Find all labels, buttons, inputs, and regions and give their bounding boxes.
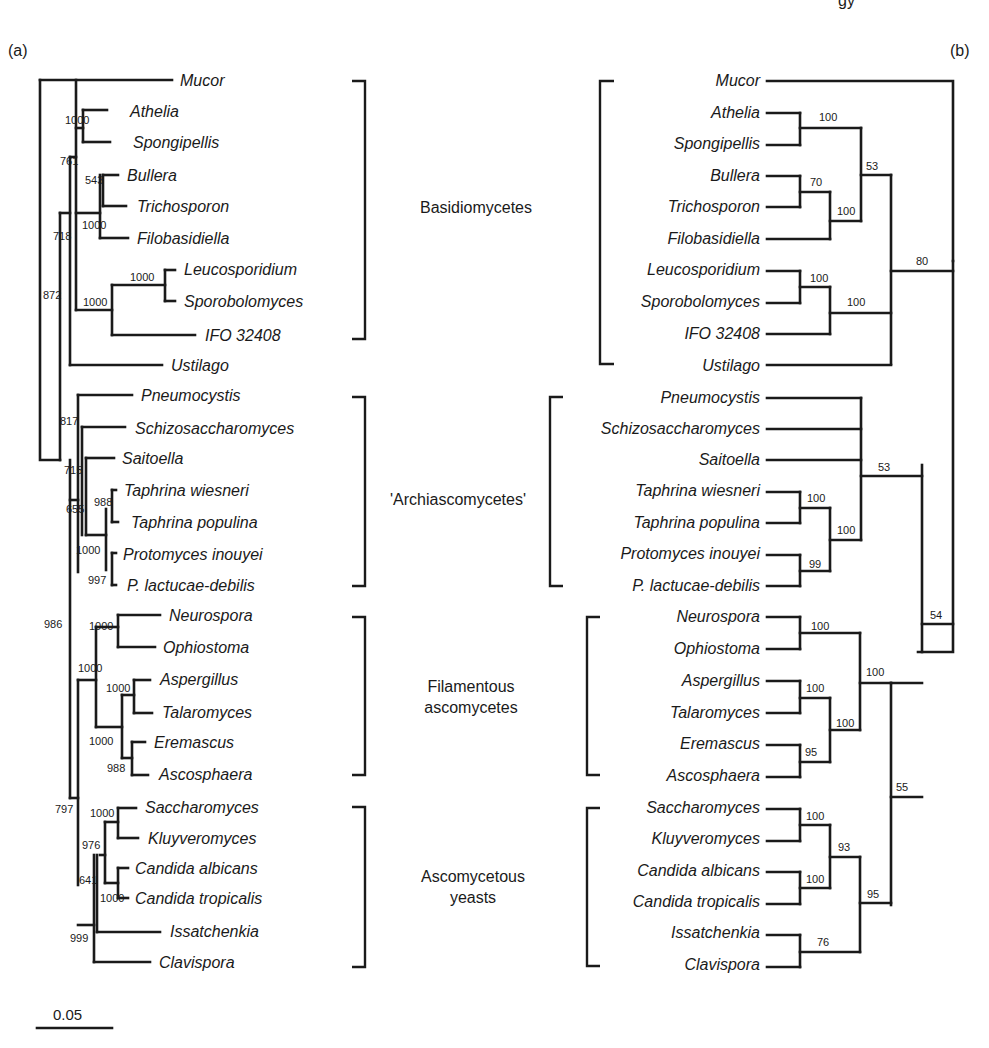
taxon-label: Kluyveromyces [148, 830, 256, 847]
panel-a-label: (a) [8, 42, 28, 59]
bootstrap-value: 997 [88, 574, 106, 586]
taxon-label: Leucosporidium [184, 261, 297, 278]
group-label-filamentous-line2: ascomycetes [424, 699, 517, 716]
group-label-filamentous-line1: Filamentous [427, 678, 514, 695]
taxon-label: Clavispora [684, 956, 760, 973]
panel-b: (b) Mucor Athelia Spongipellis Bullera T… [601, 42, 970, 973]
taxon-label: Ophiostoma [674, 640, 760, 657]
taxon-label: Sporobolomyces [641, 293, 760, 310]
taxon-label: Taphrina populina [131, 514, 258, 531]
group-label-archiascomycetes: 'Archiascomycetes' [390, 491, 526, 508]
bootstrap-value: 70 [810, 176, 822, 188]
taxon-label: Pneumocystis [141, 387, 241, 404]
taxon-label: Taphrina wiesneri [635, 482, 760, 499]
taxon-label: Candida tropicalis [135, 890, 262, 907]
taxon-label: Neurospora [676, 608, 760, 625]
bootstrap-value: 1000 [130, 271, 154, 283]
taxon-label: Aspergillus [681, 672, 760, 689]
taxon-label: Taphrina wiesneri [124, 482, 249, 499]
panel-b-branches [767, 81, 953, 967]
bootstrap-value: 76 [817, 936, 829, 948]
taxon-label: Mucor [180, 72, 225, 89]
taxon-label: Issatchenkia [671, 924, 760, 941]
bootstrap-value: 100 [806, 810, 824, 822]
taxon-label: Schizosaccharomyces [601, 420, 760, 437]
bracket-filamentous-b [587, 617, 600, 775]
group-brackets: Basidiomycetes 'Archiascomycetes' Filame… [352, 81, 614, 967]
bootstrap-value: 100 [847, 296, 865, 308]
taxon-label: Saccharomyces [145, 799, 259, 816]
bootstrap-value: 1000 [82, 219, 106, 231]
taxon-label: Bullera [710, 167, 760, 184]
taxon-label: Protomyces inouyei [123, 546, 263, 563]
bootstrap-value: 100 [810, 272, 828, 284]
taxon-label: Ascosphaera [158, 766, 252, 783]
bracket-yeasts-b [587, 808, 600, 966]
taxon-label: Ascosphaera [666, 767, 760, 784]
taxon-label: Protomyces inouyei [620, 545, 760, 562]
taxon-label: Neurospora [169, 607, 253, 624]
branch-root [40, 80, 60, 460]
taxon-label: Saitoella [699, 451, 760, 468]
bootstrap-value: 100 [836, 717, 854, 729]
bootstrap-value: 1000 [76, 544, 100, 556]
taxon-label: Candida tropicalis [633, 893, 760, 910]
taxon-label: P. lactucae-debilis [127, 577, 255, 594]
bootstrap-value: 54 [930, 609, 942, 621]
panel-a-taxa: Mucor Athelia Spongipellis Bullera Trich… [122, 72, 303, 971]
scale-bar-label: 0.05 [53, 1006, 82, 1023]
bootstrap-value: 655 [66, 503, 84, 515]
taxon-label: Saitoella [122, 450, 183, 467]
phylogenetic-figure: gy (a) [0, 0, 989, 1048]
bootstrap-value: 100 [866, 666, 884, 678]
bracket-yeasts-a [352, 807, 365, 967]
taxon-label: Ustilago [702, 357, 760, 374]
taxon-label: Clavispora [159, 954, 235, 971]
taxon-label: Athelia [710, 104, 760, 121]
taxon-label: Eremascus [680, 735, 760, 752]
bootstrap-value: 100 [819, 111, 837, 123]
bootstrap-value: 95 [867, 888, 879, 900]
bootstrap-value: 99 [809, 558, 821, 570]
bootstrap-value: 797 [55, 803, 73, 815]
bootstrap-value: 986 [44, 618, 62, 630]
bracket-archiascomycetes-a [352, 397, 365, 586]
taxon-label: Aspergillus [159, 671, 238, 688]
taxon-label: Ophiostoma [163, 639, 249, 656]
bootstrap-value: 1000 [65, 114, 89, 126]
bootstrap-value: 817 [60, 415, 78, 427]
taxon-label: P. lactucae-debilis [632, 577, 760, 594]
bracket-filamentous-a [352, 617, 365, 775]
bracket-basidiomycetes-a [352, 81, 365, 339]
taxon-label: Talaromyces [670, 704, 760, 721]
bootstrap-value: 80 [916, 255, 928, 267]
scale-bar: 0.05 [37, 1006, 112, 1028]
taxon-label: Candida albicans [637, 862, 760, 879]
bootstrap-value: 1000 [83, 296, 107, 308]
panel-b-label: (b) [950, 42, 970, 59]
taxon-label: IFO 32408 [684, 325, 760, 342]
taxon-label: Talaromyces [162, 704, 252, 721]
taxon-label: Pneumocystis [660, 389, 760, 406]
page-header-fragment: gy [838, 0, 855, 9]
bootstrap-value: 1000 [100, 892, 124, 904]
taxon-label: Spongipellis [133, 134, 219, 151]
bootstrap-value: 1000 [89, 620, 113, 632]
taxon-label: Leucosporidium [647, 261, 760, 278]
taxon-label: Taphrina populina [633, 514, 760, 531]
bootstrap-value: 1000 [78, 662, 102, 674]
taxon-label: Ustilago [171, 357, 229, 374]
taxon-label: Mucor [716, 72, 761, 89]
bootstrap-value: 100 [811, 620, 829, 632]
bootstrap-value: 100 [807, 492, 825, 504]
bootstrap-value: 53 [878, 461, 890, 473]
bootstrap-value: 1000 [106, 682, 130, 694]
bootstrap-value: 543 [85, 174, 103, 186]
bootstrap-value: 761 [60, 155, 78, 167]
bootstrap-value: 718 [53, 230, 71, 242]
taxon-label: Filobasidiella [137, 230, 230, 247]
bootstrap-value: 872 [43, 289, 61, 301]
bootstrap-value: 988 [107, 762, 125, 774]
bootstrap-value: 976 [82, 839, 100, 851]
bootstrap-value: 95 [805, 746, 817, 758]
